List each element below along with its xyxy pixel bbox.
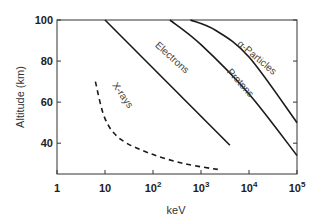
y-tick-label: 40 bbox=[41, 137, 53, 149]
y-tick-label: 60 bbox=[41, 96, 53, 108]
chart: 406080100 110102103104105 X-raysElectron… bbox=[0, 0, 319, 224]
curve--particles bbox=[190, 20, 297, 123]
x-tick-label: 103 bbox=[193, 180, 210, 194]
x-tick-label: 104 bbox=[241, 180, 258, 194]
curve-x-rays bbox=[95, 82, 221, 170]
x-tick-label: 1 bbox=[54, 182, 60, 194]
y-tick-label: 80 bbox=[41, 55, 53, 67]
y-axis-title: Altitude (km) bbox=[14, 66, 26, 128]
x-tick-label: 10 bbox=[99, 182, 111, 194]
curve-label: Protons bbox=[225, 66, 256, 99]
x-tick-label: 102 bbox=[145, 180, 162, 194]
curve-label: α-Particles bbox=[236, 38, 279, 77]
y-tick-label: 100 bbox=[35, 14, 53, 26]
curve-label: X-rays bbox=[110, 80, 136, 110]
curve-protons bbox=[170, 20, 297, 156]
plot-frame bbox=[57, 20, 297, 174]
x-axis-title: keV bbox=[167, 204, 187, 216]
curve-electrons bbox=[105, 20, 230, 145]
plot-border bbox=[57, 20, 297, 174]
x-tick-label: 105 bbox=[289, 180, 306, 194]
curve-label: Electrons bbox=[153, 39, 191, 75]
